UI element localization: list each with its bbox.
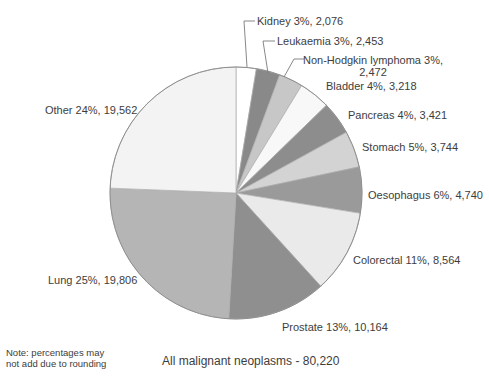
pie-slice-lung xyxy=(110,188,236,319)
slice-label-lung: Lung 25%, 19,806 xyxy=(48,274,137,286)
slice-label-kidney: Kidney 3%, 2,076 xyxy=(257,15,343,27)
slice-label-stomach: Stomach 5%, 3,744 xyxy=(362,141,458,153)
slice-label-nhl-line1: Non-Hodgkin lymphoma 3%, xyxy=(303,54,443,66)
slice-label-nhl-line2: 2,472 xyxy=(359,66,387,78)
slice-label-non-hodgkin-lymphoma: Non-Hodgkin lymphoma 3%, 2,472 xyxy=(302,54,444,78)
slice-label-bladder: Bladder 4%, 3,218 xyxy=(326,80,417,92)
slice-label-prostate: Prostate 13%, 10,164 xyxy=(282,321,388,333)
slice-label-pancreas: Pancreas 4%, 3,421 xyxy=(348,109,447,121)
total-neoplasms-label: All malignant neoplasms - 80,220 xyxy=(162,354,339,368)
slice-label-oesophagus: Oesophagus 6%, 4,740 xyxy=(368,189,483,201)
rounding-note-line2: not add due to rounding xyxy=(6,358,106,369)
leader-line-nhl xyxy=(284,59,304,77)
leader-line-kidney xyxy=(244,21,255,67)
slice-label-other: Other 24%, 19,562 xyxy=(45,104,137,116)
leader-line-leukaemia xyxy=(263,41,275,73)
slice-label-leukaemia: Leukaemia 3%, 2,453 xyxy=(277,35,383,47)
pie-chart-figure: Kidney 3%, 2,076 Leukaemia 3%, 2,453 Non… xyxy=(0,0,489,376)
pie-slice-other xyxy=(110,67,236,193)
rounding-note: Note: percentages may not add due to rou… xyxy=(6,347,106,369)
rounding-note-line1: Note: percentages may xyxy=(6,347,104,358)
slice-label-colorectal: Colorectal 11%, 8,564 xyxy=(353,254,460,266)
